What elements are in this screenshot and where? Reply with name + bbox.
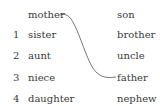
left-word: aunt [28, 50, 51, 62]
item-number: 3 [13, 72, 19, 84]
item-number: 2 [13, 50, 19, 62]
left-word: sister [28, 29, 56, 41]
left-word-example: mother [28, 9, 65, 21]
right-word: nephew [117, 93, 157, 105]
right-word: uncle [117, 50, 145, 62]
item-number: 1 [13, 29, 19, 41]
right-word: brother [117, 29, 155, 41]
item-number: 4 [13, 93, 19, 105]
left-word: niece [28, 72, 55, 84]
right-word: son [117, 9, 135, 21]
right-word: father [117, 72, 148, 84]
left-word: daughter [28, 93, 74, 105]
